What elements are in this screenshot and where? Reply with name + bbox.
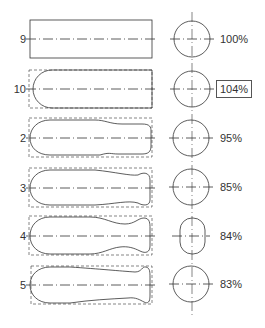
section-3: [169, 169, 213, 205]
sections: [169, 12, 214, 318]
row-label-2: 2: [6, 132, 26, 144]
profile-4: [26, 216, 158, 255]
row-label-5: 5: [6, 279, 26, 291]
profile-10: [26, 70, 158, 108]
row-label-4: 4: [6, 230, 26, 242]
profile-5: [26, 266, 158, 304]
percent-label-9: 100%: [220, 33, 248, 45]
profile-9: [26, 20, 158, 58]
percent-label-10: 104%: [216, 80, 252, 98]
percent-label-5: 83%: [220, 278, 242, 290]
row-label-9: 9: [6, 33, 26, 45]
section-4: [172, 218, 210, 254]
profile-3: [26, 168, 158, 207]
profile-2: [26, 118, 158, 157]
section-5: [169, 266, 213, 302]
percent-label-2: 95%: [220, 132, 242, 144]
row-label-10: 10: [6, 83, 26, 95]
section-2: [169, 120, 213, 156]
percent-label-3: 85%: [220, 181, 242, 193]
percent-label-4: 84%: [220, 230, 242, 242]
row-label-3: 3: [6, 182, 26, 194]
